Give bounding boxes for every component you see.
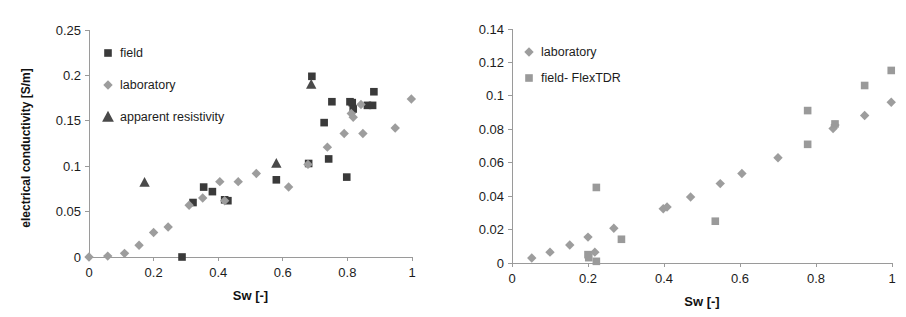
y-tick-label: 0.08 — [479, 122, 504, 137]
legend-label: field — [120, 46, 143, 60]
data-point-square — [804, 107, 812, 115]
data-point-square — [804, 141, 812, 149]
data-point-diamond — [198, 193, 207, 202]
series-apparent-resistivity — [139, 79, 316, 187]
data-point-square — [325, 155, 333, 163]
data-point-square — [370, 88, 378, 96]
data-point-square — [200, 183, 208, 191]
data-point-square — [712, 217, 720, 225]
data-point-square — [320, 119, 328, 127]
x-tick-label: 0.8 — [807, 271, 825, 286]
axes: 00.050.10.150.20.2500.20.40.60.81 — [56, 23, 416, 281]
x-tick-label: 0.2 — [145, 265, 163, 280]
y-tick-label: 0.15 — [56, 113, 81, 128]
data-point-diamond — [234, 177, 243, 186]
legend-marker-diamond — [524, 47, 533, 56]
x-tick-label: 0.2 — [579, 271, 597, 286]
data-point-square — [273, 176, 281, 184]
scatter-panel-right: 00.020.040.060.080.10.120.1400.20.40.60.… — [453, 0, 906, 317]
legend: laboratoryfield- FlexTDR — [524, 45, 621, 85]
data-point-square — [618, 235, 626, 243]
data-point-diamond — [215, 177, 224, 186]
x-tick-label: 0 — [85, 265, 92, 280]
y-tick-label: 0 — [74, 250, 81, 265]
data-point-diamond — [609, 224, 618, 233]
legend-label: field- FlexTDR — [541, 71, 621, 85]
data-point-diamond — [149, 228, 158, 237]
y-tick-label: 0.12 — [479, 55, 504, 70]
data-point-square — [831, 120, 839, 128]
legend-item: laboratory — [103, 78, 176, 92]
legend-marker-diamond — [103, 80, 112, 89]
data-point-square — [585, 254, 593, 262]
data-point-diamond — [716, 179, 725, 188]
data-point-diamond — [252, 169, 261, 178]
figure-root: 00.050.10.150.20.2500.20.40.60.81Sw [-]e… — [0, 0, 906, 317]
data-point-diamond — [527, 253, 536, 262]
legend-marker-square — [525, 74, 533, 82]
scatter-plot-right-svg: 00.020.040.060.080.10.120.1400.20.40.60.… — [453, 0, 906, 317]
y-tick-label: 0.2 — [63, 68, 81, 83]
y-tick-label: 0.14 — [479, 22, 504, 37]
data-point-square — [328, 98, 336, 106]
data-point-diamond — [163, 222, 172, 231]
data-point-triangle — [306, 79, 316, 89]
data-point-diamond — [284, 182, 293, 191]
x-axis-title: Sw [-] — [233, 288, 268, 303]
data-point-diamond — [407, 94, 416, 103]
data-point-triangle — [271, 158, 281, 168]
data-point-square — [178, 253, 186, 261]
legend-item: laboratory — [524, 45, 597, 59]
data-point-diamond — [390, 123, 399, 132]
y-tick-label: 0.25 — [56, 23, 81, 38]
y-tick-label: 0.06 — [479, 155, 504, 170]
x-tick-label: 1 — [408, 265, 415, 280]
data-point-diamond — [323, 142, 332, 151]
legend-item: field — [104, 46, 143, 60]
y-tick-label: 0.02 — [479, 222, 504, 237]
legend-label: laboratory — [541, 45, 597, 59]
data-point-diamond — [103, 251, 112, 260]
series-laboratory — [527, 98, 896, 263]
x-axis-title: Sw [-] — [684, 294, 719, 309]
data-point-square — [343, 173, 351, 181]
x-tick-label: 0 — [508, 271, 515, 286]
legend-item: apparent resistivity — [102, 110, 225, 124]
axes: 00.020.040.060.080.10.120.1400.20.40.60.… — [479, 22, 896, 287]
x-tick-label: 1 — [888, 271, 895, 286]
y-axis-title: electrical conductivity [S/m] — [19, 68, 33, 227]
data-point-square — [861, 82, 869, 90]
data-point-diamond — [358, 129, 367, 138]
y-tick-label: 0.1 — [63, 159, 81, 174]
data-point-diamond — [737, 169, 746, 178]
data-point-diamond — [84, 252, 93, 261]
data-point-square — [308, 73, 316, 81]
data-point-diamond — [583, 232, 592, 241]
data-points — [84, 73, 416, 262]
data-point-diamond — [134, 240, 143, 249]
y-tick-label: 0.1 — [486, 88, 504, 103]
scatter-panel-left: 00.050.10.150.20.2500.20.40.60.81Sw [-]e… — [0, 0, 453, 317]
data-points — [527, 67, 896, 265]
data-point-triangle — [139, 177, 149, 187]
data-point-square — [369, 102, 377, 110]
data-point-square — [209, 188, 217, 196]
x-tick-label: 0.4 — [209, 265, 227, 280]
y-tick-label: 0.05 — [56, 204, 81, 219]
legend-label: laboratory — [120, 78, 176, 92]
series-field-flextdr — [584, 67, 895, 265]
x-tick-label: 0.8 — [338, 265, 356, 280]
data-point-diamond — [773, 153, 782, 162]
legend-item: field- FlexTDR — [525, 71, 621, 85]
x-tick-label: 0.4 — [655, 271, 673, 286]
legend-marker-square — [104, 49, 112, 57]
data-point-square — [593, 184, 601, 192]
data-point-square — [593, 258, 601, 266]
data-point-diamond — [887, 98, 896, 107]
data-point-diamond — [565, 240, 574, 249]
legend-marker-triangle — [102, 111, 114, 122]
y-tick-label: 0 — [497, 256, 504, 271]
data-point-square — [887, 67, 895, 75]
scatter-plot-left-svg: 00.050.10.150.20.2500.20.40.60.81Sw [-]e… — [0, 0, 453, 317]
y-tick-label: 0.04 — [479, 189, 504, 204]
